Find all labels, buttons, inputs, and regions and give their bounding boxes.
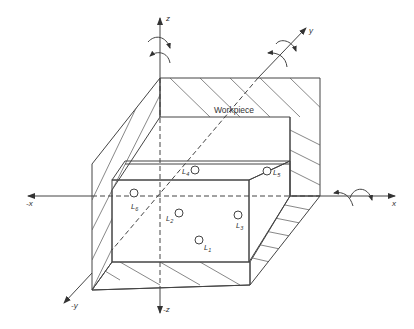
axis-label-neg-x: -x [26,199,34,208]
neg-y-axis [64,273,92,303]
axis-label-neg-y: -y [71,301,79,310]
svg-text:L3: L3 [236,221,244,231]
locator-L5: L5 [263,167,281,178]
back-wall-plate [160,78,330,196]
rotation-arrow-x [334,189,372,206]
axis-label-y: y [308,26,314,35]
locator-L6: L6 [130,189,139,212]
workpiece-fixture-diagram: z -z x -x y -y Workpiece L1 L2 L3 L4 L5 … [0,0,414,329]
svg-text:L6: L6 [131,202,139,212]
left-wall-plate [92,78,165,320]
svg-text:L4: L4 [182,167,189,177]
y-axis [258,28,306,78]
svg-text:L1: L1 [204,243,211,253]
locator-L2: L2 [166,209,183,224]
locator-L1: L1 [195,236,211,253]
axis-label-neg-z: -z [163,305,170,314]
axis-label-z: z [165,14,170,23]
axis-label-x: x [391,199,397,208]
svg-text:L5: L5 [273,168,281,178]
locator-L4: L4 [182,166,199,177]
locator-L3: L3 [234,211,244,231]
svg-text:L2: L2 [166,214,173,224]
right-slanted-plate [248,196,320,285]
rotation-arrow-z [148,37,170,63]
workpiece-label: Workpiece [214,105,254,115]
bottom-plate [92,262,250,290]
